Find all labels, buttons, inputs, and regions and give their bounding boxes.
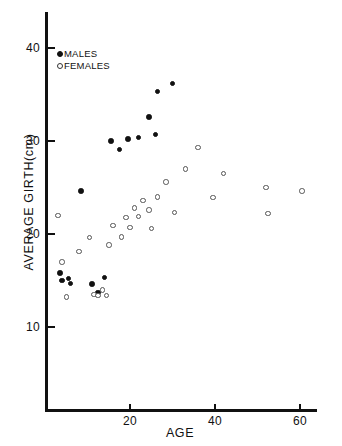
legend: MALES FEMALES [57,48,110,72]
data-point-male [153,132,159,138]
y-tick-label: 40 [14,41,40,55]
data-point-female [110,223,116,229]
data-point-female [195,145,201,151]
scatter-plot-figure: 10203040 204060 AVERAGE GIRTH(cm) AGE MA… [0,0,342,446]
data-point-female [172,210,178,216]
x-tick-mark [214,404,216,411]
data-point-female [87,235,93,241]
legend-entry-males: MALES [57,48,110,59]
y-tick-label: 10 [14,320,40,334]
data-point-female [55,213,61,219]
data-point-female [64,294,70,300]
data-point-male [68,281,74,287]
data-point-female [132,205,138,211]
x-tick-mark [129,404,131,411]
data-point-female [265,211,271,217]
legend-label-males: MALES [64,48,97,59]
legend-label-females: FEMALES [64,60,110,71]
data-point-male [57,270,63,276]
x-axis-title: AGE [140,426,220,440]
x-axis-line [45,409,317,412]
data-point-male [155,89,161,95]
data-point-female [59,259,65,265]
data-point-female [123,215,129,221]
data-point-female [149,226,155,232]
open-circle-icon [57,63,63,69]
data-point-male [78,188,84,194]
data-point-male [170,81,176,87]
data-point-female [210,195,216,201]
data-point-female [299,188,305,194]
data-point-female [183,166,189,172]
data-point-female [155,194,161,200]
y-axis-title: AVERAGE GIRTH(cm) [22,107,36,297]
data-point-female [119,234,125,240]
y-tick-mark [48,233,55,235]
filled-circle-icon [57,51,63,57]
data-point-male [89,281,95,287]
data-point-male [59,278,65,284]
x-tick-label: 60 [285,414,315,428]
y-tick-mark [48,140,55,142]
data-point-female [76,249,82,255]
data-point-male [136,135,142,141]
data-point-female [127,225,133,231]
data-point-female [104,293,110,299]
data-point-female [100,287,106,293]
data-point-female [95,293,101,299]
data-point-male [108,138,114,144]
data-point-female [163,179,169,185]
data-point-female [140,198,146,204]
x-tick-mark [299,404,301,411]
y-tick-mark [48,47,55,49]
data-point-female [136,214,142,220]
y-tick-mark [48,326,55,328]
data-point-female [263,185,269,191]
data-point-female [106,242,112,248]
y-axis-line [45,12,48,412]
data-point-female [146,207,152,213]
data-point-male [102,275,108,281]
data-point-male [146,114,152,120]
legend-entry-females: FEMALES [57,60,110,71]
data-point-female [221,171,227,177]
data-point-male [117,147,123,153]
data-point-male [125,136,131,142]
